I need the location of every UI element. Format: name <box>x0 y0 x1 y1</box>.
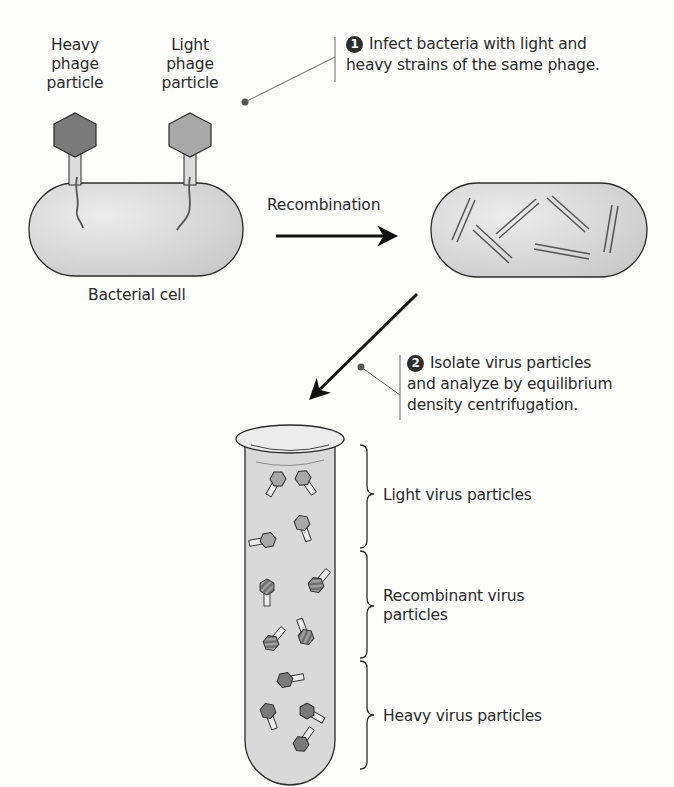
step2-callout-line <box>358 355 401 420</box>
heavy-phage-label-line2: phage <box>40 55 110 74</box>
brace-recombinant <box>360 551 374 658</box>
step-1-number-badge: 1 <box>346 36 363 53</box>
recombinant-band-label-line1: Recombinant virus <box>383 587 524 606</box>
step-2-line2: and analyze by equilibrium <box>407 374 612 395</box>
light-phage-label-line2: phage <box>155 55 225 74</box>
light-phage-label: Light phage particle <box>155 36 225 93</box>
brace-heavy <box>360 661 374 769</box>
step-2-line3: density centrifugation. <box>407 395 612 416</box>
test-tube <box>236 425 344 785</box>
recombinant-band-label: Recombinant virus particles <box>383 587 524 625</box>
step-2-text: 2Isolate virus particles and analyze by … <box>407 353 612 416</box>
light-band-label: Light virus particles <box>383 486 532 505</box>
brace-light <box>360 445 374 548</box>
step-1-line2: heavy strains of the same phage. <box>346 55 600 76</box>
step-2-number-badge: 2 <box>407 355 424 372</box>
step-1-text: 1Infect bacteria with light and heavy st… <box>346 34 600 76</box>
recombination-label: Recombination <box>267 196 380 215</box>
step-2-line1: Isolate virus particles <box>430 354 591 372</box>
light-phage-label-line3: particle <box>155 74 225 93</box>
bacterial-cell <box>29 183 243 276</box>
step-1-line1: Infect bacteria with light and <box>369 35 587 53</box>
heavy-phage-label-line1: Heavy <box>40 36 110 55</box>
bacterial-cell-label: Bacterial cell <box>88 286 186 305</box>
step1-callout-line <box>242 37 336 106</box>
light-phage-label-line1: Light <box>155 36 225 55</box>
recombinant-band-label-line2: particles <box>383 606 524 625</box>
heavy-phage-label-line3: particle <box>40 74 110 93</box>
heavy-phage-label: Heavy phage particle <box>40 36 110 93</box>
heavy-band-label: Heavy virus particles <box>383 707 542 726</box>
isolation-arrow <box>312 294 417 397</box>
